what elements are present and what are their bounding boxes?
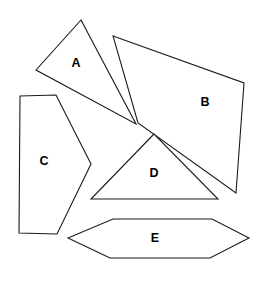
shape-a-label: A — [71, 56, 80, 70]
shape-b-label: B — [200, 95, 209, 109]
shapes-figure: A B C D E — [0, 0, 261, 288]
shapes-canvas: A B C D E — [0, 0, 261, 288]
shape-group-c: C — [19, 95, 91, 234]
shape-group-e: E — [68, 219, 249, 258]
shape-e-label: E — [151, 231, 159, 245]
shape-d-label: D — [149, 166, 158, 180]
shape-c-label: C — [39, 154, 48, 168]
shape-c-polygon[interactable] — [19, 95, 91, 234]
